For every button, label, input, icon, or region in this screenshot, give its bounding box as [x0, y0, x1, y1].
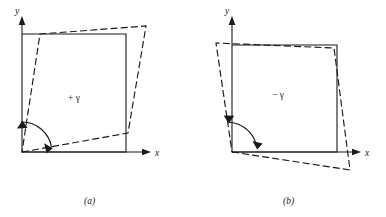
angle-arc-arrowhead-bottom-b: [252, 141, 262, 149]
y-axis-b: [229, 16, 236, 152]
strain-label-a: + γ: [68, 93, 80, 103]
x-axis-arrowhead-b: [352, 149, 361, 156]
panel-b: y x − γ (b): [216, 6, 370, 207]
y-axis-label-a: y: [14, 6, 20, 16]
x-axis-label-a: x: [154, 148, 160, 158]
panel-caption-a: (a): [84, 196, 95, 207]
shear-strain-figure: y x + γ (a): [0, 0, 386, 217]
y-axis-arrowhead-b: [229, 16, 236, 25]
panel-caption-b: (b): [283, 196, 294, 207]
deformed-parallelogram-a: [22, 26, 146, 152]
x-axis-arrowhead-a: [142, 149, 151, 156]
x-axis-label-b: x: [364, 148, 370, 158]
panel-a: y x + γ (a): [14, 6, 160, 207]
x-axis-b: [232, 149, 361, 156]
strain-label-b: − γ: [272, 90, 284, 100]
y-axis-label-b: y: [224, 6, 230, 16]
y-axis-arrowhead-a: [19, 16, 26, 25]
deformed-parallelogram-b: [216, 43, 350, 170]
x-axis-a: [22, 149, 151, 156]
y-axis-a: [19, 16, 26, 152]
undeformed-rectangle-b: [232, 45, 337, 152]
figure-container: y x + γ (a): [0, 0, 386, 217]
